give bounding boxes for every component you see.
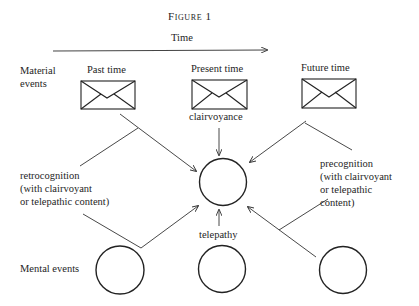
envelope-icon [81,81,135,109]
precognition-label-leader-top [305,123,352,150]
column-label-future: Future time [301,62,350,75]
diagram-canvas [0,0,419,306]
retrocognition-material-arrow [120,114,196,171]
retrocognition-label-line2: (with clairvoyant [20,183,92,196]
mental-event-present-circle [199,246,246,293]
precognition-label-line1: precognition [320,158,373,171]
retrocognition-label-line1: retrocognition [20,170,79,183]
mental-event-future-circle [320,247,367,294]
retrocognition-label-leader-top [80,128,138,166]
row-label-mental: Mental events [20,263,79,276]
time-arrow [53,50,267,51]
telepathy-label: telepathy [199,229,237,242]
clairvoyance-label: clairvoyance [189,111,243,124]
column-label-past: Past time [87,64,126,77]
precognition-label-line4: content) [320,197,354,210]
mental-event-past-circle [96,246,144,294]
envelope-icon [302,79,356,108]
precognition-label-line3: or telepathic [320,184,372,197]
central-mind-circle [200,159,247,206]
retrocognition-mental-arrow [141,206,198,248]
column-label-present: Present time [191,63,243,76]
precognition-material-arrow [250,121,306,162]
retrocognition-label-line3: or telepathic content) [20,196,109,209]
precognition-mental-arrow [248,207,316,257]
figure-title: Figure 1 [168,10,212,23]
time-axis-label: Time [171,32,193,45]
retrocognition-label-leader-bottom [83,214,141,248]
row-label-material-line1: Material [20,65,56,78]
envelope-icon [192,80,247,109]
precognition-label-line2: (with clairvoyant [320,171,392,184]
row-label-material-line2: events [20,78,47,91]
